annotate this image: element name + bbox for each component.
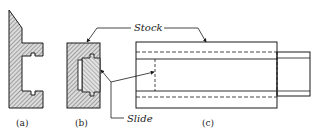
slide-label: Slide (127, 113, 153, 124)
stock-label: Stock (134, 22, 163, 33)
slide-leader (101, 70, 154, 118)
view-c-side (136, 42, 310, 108)
caption-a: (a) (16, 118, 28, 128)
caption-b: (b) (75, 118, 88, 128)
profile-a-stock-section (9, 10, 43, 108)
profile-b-assembled-section (67, 43, 100, 108)
caption-c: (c) (202, 118, 214, 128)
dovetail-slide-diagram: Stock Slide (a) (b) (c) (0, 0, 318, 135)
